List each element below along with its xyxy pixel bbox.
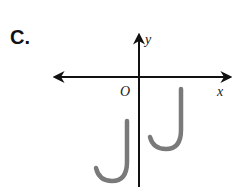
translated-j-shape — [96, 121, 127, 181]
original-j-shape — [150, 89, 181, 149]
origin-label: O — [120, 84, 130, 99]
y-axis-label: y — [143, 32, 152, 47]
coordinate-plane: y x O — [0, 0, 247, 187]
x-axis-label: x — [216, 84, 224, 99]
